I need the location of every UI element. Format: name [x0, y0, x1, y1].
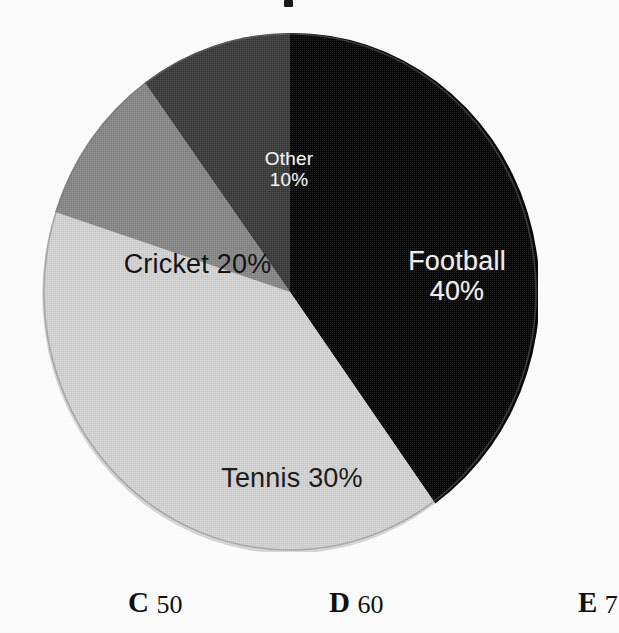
pie-label-cricket: Cricket 20% [90, 249, 305, 279]
answer-option-c-value: 50 [156, 590, 182, 619]
answer-option-e[interactable]: E7 [578, 586, 618, 619]
pie-label-other: Other 10% [234, 148, 344, 191]
answer-option-d[interactable]: D60 [329, 586, 383, 619]
answer-option-d-letter: D [329, 586, 350, 618]
answer-options-row: C50 D60 E7 [0, 586, 619, 633]
answer-option-c[interactable]: C50 [128, 586, 182, 619]
pie-label-tennis: Tennis 30% [192, 463, 392, 493]
pie-label-football: Football 40% [372, 246, 542, 306]
answer-option-c-letter: C [128, 586, 149, 618]
answer-option-e-letter: E [578, 586, 598, 618]
cropped-title-remnant [284, 0, 293, 7]
pie-chart: Football 40% Tennis 30% Cricket 20% Othe… [42, 32, 538, 552]
figure-page: Football 40% Tennis 30% Cricket 20% Othe… [0, 0, 619, 633]
answer-option-e-value: 7 [605, 590, 618, 619]
answer-option-d-value: 60 [357, 590, 383, 619]
